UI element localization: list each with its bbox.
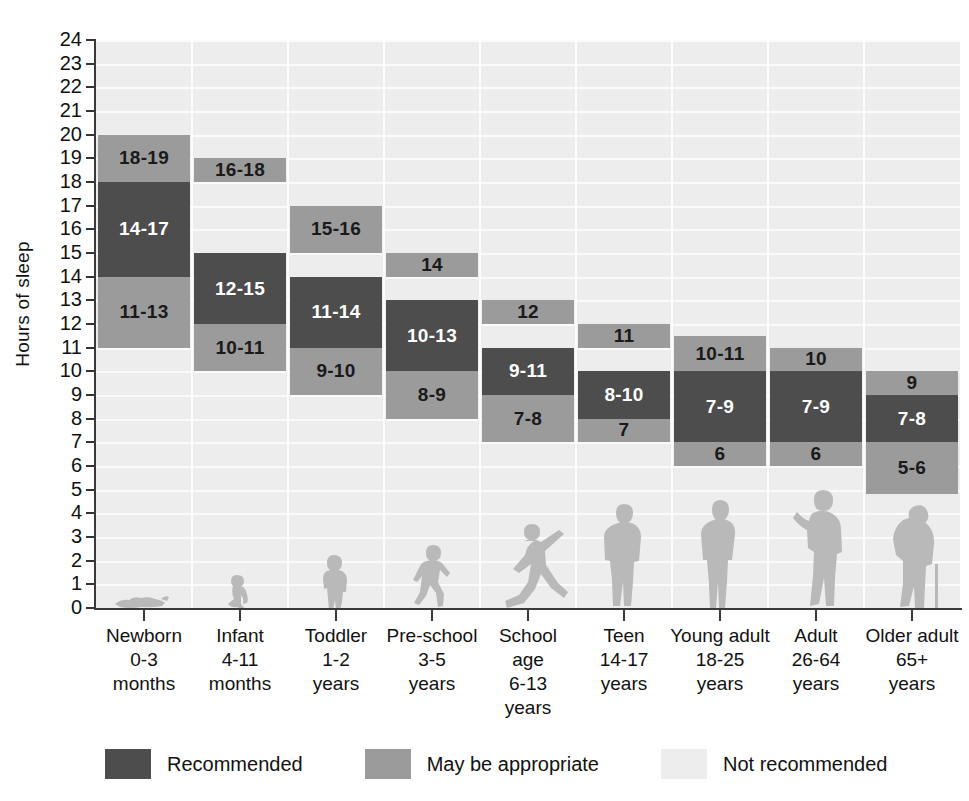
x-tick-mark [719,608,721,621]
child-running-icon [405,542,459,608]
bar-segment-label: 18-19 [119,147,169,169]
bar-segment-lower: 9-10 [290,348,382,395]
bar-segment-label: 9 [907,372,918,394]
legend-swatch [661,749,707,779]
x-axis-labels: Newborn0-3monthsInfant4-11monthsToddler1… [0,624,969,720]
baby-lying-icon [109,590,179,608]
bar-segment-label: 9-10 [316,360,355,382]
toddler-standing-icon [314,552,358,608]
legend-item: May be appropriate [365,749,599,779]
bar-column: 67-910-11 [672,40,768,608]
bar-segment-label: 10-11 [695,343,744,365]
child-playing-icon [482,520,574,608]
bar-segment-label: 5-6 [898,457,926,479]
bar-segment-label: 16-18 [215,159,265,181]
legend-item: Not recommended [661,749,888,779]
bar-segment-lower: 7-8 [482,395,574,442]
bar-column: 7-89-1112 [480,40,576,608]
bar-segment-rec: 11-14 [290,277,382,348]
bar-segment-label: 7-9 [802,396,830,418]
bar-segment-label: 14-17 [119,218,169,240]
y-tick-label: 5 [36,478,82,500]
bar-segment-lower: 8-9 [386,371,478,418]
bar-segment-lower: 7 [578,419,670,443]
x-tick-mark [143,608,145,621]
legend-swatch [365,749,411,779]
y-tick-label: 8 [36,407,82,429]
y-tick-label: 9 [36,383,82,405]
legend-label: May be appropriate [427,753,599,776]
bar-segment-label: 7-8 [898,408,926,430]
bar-segment-label: 8-10 [604,384,643,406]
y-tick-label: 3 [36,525,82,547]
y-tick-label: 15 [36,241,82,263]
x-tick-mark [527,608,529,621]
y-tick-label: 11 [36,336,82,358]
bar-segment-label: 10-11 [215,337,264,359]
bar-segment-lower: 10-11 [194,324,286,371]
bar-segment-upper: 9 [866,371,958,395]
bar-segment-upper: 16-18 [194,158,286,182]
y-tick-label: 14 [36,265,82,287]
chart-legend: RecommendedMay be appropriateNot recomme… [0,742,969,786]
bar-segment-rec: 7-9 [674,371,766,442]
adult-standing-icon [775,486,857,608]
y-tick-label: 18 [36,170,82,192]
x-tick-mark [815,608,817,621]
y-tick-label: 7 [36,430,82,452]
bar-segment-upper: 15-16 [290,206,382,253]
legend-label: Not recommended [723,753,888,776]
y-axis: 2423222120191817161514131211109876543210 [0,0,96,640]
bar-segment-label: 11 [614,325,635,347]
legend-item: Recommended [105,749,303,779]
bar-segment-label: 7-9 [706,396,734,418]
y-tick-label: 12 [36,312,82,334]
legend-label: Recommended [167,753,303,776]
bar-segment-rec: 8-10 [578,371,670,418]
y-tick-label: 2 [36,549,82,571]
bar-segment-upper: 14 [386,253,478,277]
x-tick-mark [911,608,913,621]
bar-segment-label: 15-16 [311,218,361,240]
y-tick-label: 4 [36,501,82,523]
bar-segment-label: 10 [805,348,827,370]
y-tick-label: 16 [36,217,82,239]
bar-segment-rec: 7-9 [770,371,862,442]
baby-crawling-icon [220,572,260,608]
bar-segment-lower: 6 [770,442,862,466]
y-tick-label: 13 [36,288,82,310]
young-adult-standing-icon [697,496,743,608]
x-axis-label-line: years [472,696,584,720]
y-tick-label: 24 [36,28,82,50]
x-axis-label-line: years [856,672,968,696]
bar-segment-upper: 18-19 [98,135,190,182]
bar-segment-label: 12 [517,301,539,323]
legend-swatch [105,749,151,779]
bar-segment-lower: 6 [674,442,766,466]
plot-area: 11-1314-1718-1910-1112-1516-189-1011-141… [96,40,960,608]
bar-segment-label: 7-8 [514,408,542,430]
bar-segment-label: 8-9 [418,384,446,406]
bar-segment-label: 10-13 [407,325,457,347]
bar-segment-label: 9-11 [509,360,547,382]
bar-segment-upper: 10-11 [674,336,766,372]
x-tick-mark [431,608,433,621]
x-tick-mark [623,608,625,621]
x-axis-label: Older adult65+years [856,624,968,696]
bar-column: 78-1011 [576,40,672,608]
x-axis-ticks [0,608,969,622]
y-tick-label: 1 [36,572,82,594]
bar-segment-rec: 10-13 [386,300,478,371]
sleep-duration-chart: Hours of sleep 2423222120191817161514131… [0,0,969,801]
teen-standing-icon [599,500,649,608]
bar-segment-rec: 12-15 [194,253,286,324]
bar-column: 5-67-89 [864,40,960,608]
x-tick-mark [239,608,241,621]
bar-segment-upper: 10 [770,348,862,372]
bar-segment-rec: 7-8 [866,395,958,442]
bar-segment-label: 6 [811,443,822,465]
y-tick-label: 22 [36,75,82,97]
bar-column: 11-1314-1718-19 [96,40,192,608]
bar-column: 10-1112-1516-18 [192,40,288,608]
x-axis-label-line: Older adult [856,624,968,648]
